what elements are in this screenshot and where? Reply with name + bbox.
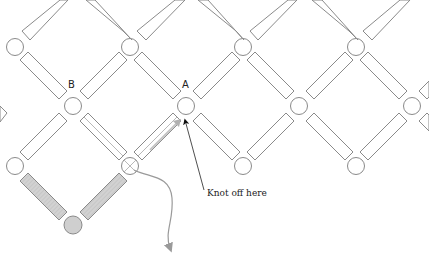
bugle-bead bbox=[193, 113, 240, 160]
bugle-bead bbox=[86, 0, 132, 40]
round-bead bbox=[404, 98, 421, 115]
netting-diagram: B A Knot off here bbox=[0, 0, 429, 255]
round-bead-b bbox=[65, 98, 82, 115]
thread-path-highlight bbox=[84, 117, 177, 172]
bugle-bead bbox=[419, 81, 429, 99]
round-bead bbox=[235, 158, 252, 175]
shaded-bugle-bead bbox=[20, 173, 67, 220]
new-beads bbox=[20, 173, 127, 234]
round-bead bbox=[7, 158, 24, 175]
bugle-bead bbox=[247, 113, 294, 160]
bugle-bead bbox=[306, 113, 353, 160]
bugle-bead bbox=[363, 0, 410, 40]
thread-direction-arrow bbox=[150, 122, 178, 150]
shaded-round-bead bbox=[64, 216, 82, 234]
annotation-knot-off: Knot off here bbox=[207, 188, 267, 198]
bugle-bead bbox=[306, 52, 353, 99]
bugle-bead bbox=[134, 52, 181, 99]
shaded-bugle-bead bbox=[80, 173, 127, 220]
bugle-bead bbox=[0, 106, 7, 122]
round-bead bbox=[348, 158, 365, 175]
bugle-bead bbox=[193, 52, 240, 99]
round-bead bbox=[291, 98, 308, 115]
bugle-bead bbox=[250, 0, 297, 40]
bugle-bead bbox=[20, 52, 67, 99]
bugle-bead bbox=[198, 0, 244, 40]
round-bead bbox=[235, 39, 252, 56]
thread-arrow bbox=[134, 170, 172, 248]
round-bead bbox=[348, 39, 365, 56]
round-bead bbox=[7, 39, 24, 56]
bugle-bead bbox=[20, 113, 67, 160]
bugle-bead bbox=[22, 0, 68, 40]
bugle-bead bbox=[360, 52, 407, 99]
bugle-bead bbox=[312, 0, 358, 40]
round-bead bbox=[122, 39, 139, 56]
knot-pointer-arrow bbox=[185, 120, 204, 190]
round-bead-a bbox=[178, 98, 195, 115]
label-a: A bbox=[182, 79, 189, 90]
bead-grid bbox=[0, 0, 429, 175]
bugle-bead bbox=[360, 113, 407, 160]
bugle-bead bbox=[80, 52, 127, 99]
label-b: B bbox=[68, 79, 75, 90]
bugle-bead bbox=[419, 113, 429, 131]
bugle-bead bbox=[137, 0, 185, 40]
bugle-bead bbox=[247, 52, 294, 99]
